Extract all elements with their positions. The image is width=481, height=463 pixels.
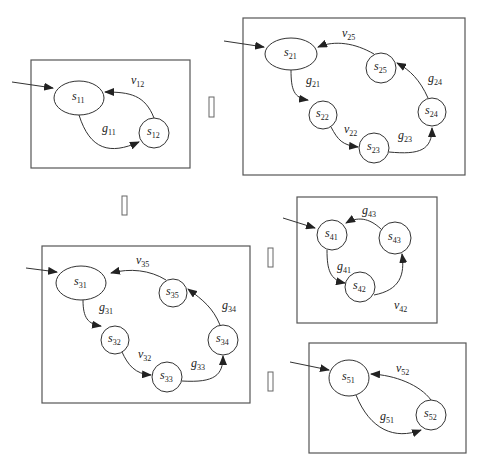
machine-5-frame	[309, 343, 466, 453]
separator-bar	[268, 248, 273, 267]
machine-5: s51 s52 g51 v52	[290, 343, 466, 453]
edge-g51	[356, 395, 421, 434]
state-machine-diagram: s11 s12 g11 v12 s21 s22 s23 s24 s25 g21 …	[0, 0, 481, 463]
edge-v52-label: v52	[396, 361, 409, 377]
edge-g43-label: g43	[362, 203, 376, 219]
separator-bar	[122, 196, 127, 215]
edge-v42	[374, 254, 403, 295]
machine-1: s11 s12 g11 v12	[12, 60, 190, 168]
edge-g43	[346, 219, 382, 230]
edge-g41-label: g41	[337, 259, 351, 275]
machine-2: s21 s22 s23 s24 s25 g21 v22 g23 g24 v25	[224, 18, 465, 175]
machine-4: s41 s42 s43 g41 v42 g43	[283, 197, 437, 323]
edge-g31-label: g31	[99, 300, 113, 316]
edge-v52	[371, 374, 431, 400]
initial-arrow	[283, 218, 315, 228]
edge-g34-label: g34	[222, 298, 236, 314]
initial-arrow	[224, 41, 264, 47]
edge-v25	[318, 43, 374, 54]
edge-v12-label: v12	[131, 73, 144, 89]
edge-v22-label: v22	[344, 122, 357, 138]
edge-g33-label: g33	[191, 356, 205, 372]
edge-g21-label: g21	[306, 73, 320, 89]
edge-g23-label: g23	[398, 128, 412, 144]
separator-bar	[209, 97, 214, 117]
machine-3: s31 s32 s33 s34 s35 g31 v32 g33 g34 v35	[26, 246, 250, 403]
edge-v42-label: v42	[394, 298, 407, 314]
initial-arrow	[12, 82, 53, 88]
edge-g24-label: g24	[428, 71, 442, 87]
edge-v25-label: v25	[342, 26, 355, 42]
edge-g24	[397, 63, 428, 98]
edge-v35-label: v35	[136, 253, 149, 269]
machine-1-frame	[31, 60, 190, 168]
edge-v35	[111, 270, 166, 280]
edge-v12	[105, 92, 154, 118]
edge-g11-label: g11	[102, 121, 116, 137]
separator-bar	[268, 372, 273, 391]
edge-v32-label: v32	[138, 347, 151, 363]
edge-g34	[188, 289, 220, 325]
edge-g51-label: g51	[380, 409, 394, 425]
